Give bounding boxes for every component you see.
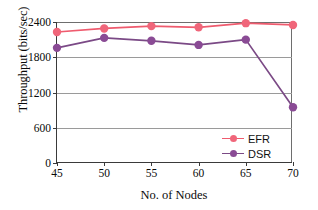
data-point-efr [53,28,61,36]
legend-label: EFR [248,133,270,145]
data-point-dsr [289,103,297,111]
chart-figure: Throughput (bits/sec) 0600120018002400 4… [0,0,318,210]
data-point-efr [194,23,202,31]
data-point-efr [289,21,297,29]
legend-dot [230,135,237,142]
data-point-efr [242,19,250,27]
y-tick-label: 1200 [28,87,51,99]
x-tick-label: 65 [240,167,252,179]
x-axis-title: No. of Nodes [56,188,292,203]
x-tick-label: 60 [193,167,205,179]
legend-marker-icon [222,148,244,160]
data-point-dsr [53,44,61,52]
data-point-dsr [242,35,250,43]
y-tick-label: 1800 [28,51,51,63]
data-point-efr [100,24,108,32]
data-point-efr [147,22,155,30]
legend-item-efr[interactable]: EFR [222,131,288,146]
legend-item-dsr[interactable]: DSR [222,146,288,161]
series-line-dsr [57,38,293,107]
y-tick-label: 600 [34,122,51,134]
data-point-dsr [147,37,155,45]
y-tick-label: 0 [45,157,51,169]
data-point-dsr [194,41,202,49]
y-tick-label: 2400 [28,16,51,28]
chart-legend: EFRDSR [222,131,288,161]
legend-dot [230,150,237,157]
data-point-dsr [100,34,108,42]
x-tick-label: 70 [287,167,299,179]
series-line-efr [57,23,293,32]
x-tick-label: 55 [146,167,158,179]
x-tick-label: 45 [51,167,63,179]
legend-label: DSR [248,148,271,160]
legend-marker-icon [222,133,244,145]
x-tick-mark [293,162,294,166]
x-tick-label: 50 [98,167,110,179]
